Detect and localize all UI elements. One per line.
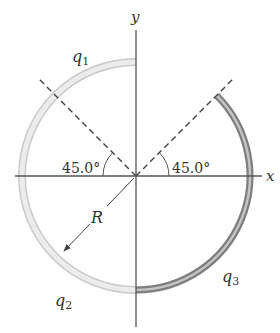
radius-label: R: [90, 208, 103, 227]
angle-label-left: 45.0°: [62, 160, 100, 176]
angle-label-right: 45.0°: [172, 160, 210, 176]
charge-label-q2: q2: [55, 291, 72, 312]
angle-arc-left: [103, 153, 113, 176]
angle-arc-right: [159, 153, 169, 176]
charge-label-q1: q1: [72, 47, 89, 68]
x-axis-label: x: [266, 167, 275, 185]
y-axis-label: y: [130, 8, 140, 26]
charge-label-q3: q3: [222, 267, 239, 288]
charged-arcs-diagram: y x 45.0° 45.0° R q1 q2 q3: [0, 0, 280, 333]
dark-arc-q3: [136, 95, 250, 290]
